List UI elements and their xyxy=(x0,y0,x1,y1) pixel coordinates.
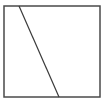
diagram-canvas xyxy=(0,0,110,106)
diagram-svg xyxy=(0,0,110,106)
dividing-line xyxy=(19,6,59,97)
square-outline xyxy=(4,6,100,97)
